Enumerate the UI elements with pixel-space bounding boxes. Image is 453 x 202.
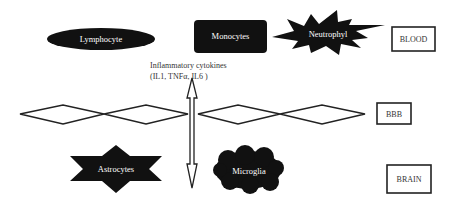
astrocytes-label: Astrocytes [98, 164, 134, 174]
diamond-2 [104, 105, 188, 124]
bbb-layer-box: BBB [377, 103, 411, 124]
neutrophyl-label: Neutrophyl [309, 29, 348, 39]
cytokines-line2: (IL1, TNFα, IL6 ) [150, 72, 208, 81]
brain-layer-box: BRAIN [387, 165, 431, 193]
diamond-3 [198, 105, 280, 124]
microglia-cell: Microglia [213, 145, 284, 194]
cloud-puff [241, 176, 259, 194]
double-arrow-icon [187, 78, 197, 188]
blood-label: BLOOD [400, 35, 428, 44]
lymphocyte-cell: Lymphocyte [47, 28, 155, 50]
neutrophyl-cell: Neutrophyl [272, 10, 385, 55]
brain-label: BRAIN [397, 175, 422, 184]
bbb-label: BBB [386, 110, 402, 119]
microglia-label: Microglia [232, 166, 266, 176]
monocytes-cell: Monocytes [194, 20, 267, 53]
cloud-puff [235, 145, 255, 165]
cytokines-annotation: Inflammatory cytokines (IL1, TNFα, IL6 ) [150, 61, 227, 81]
diamond-1 [20, 105, 104, 124]
astrocytes-cell: Astrocytes [70, 145, 162, 193]
arrow-shape [187, 78, 197, 188]
monocytes-label: Monocytes [212, 31, 250, 41]
blood-layer-box: BLOOD [392, 27, 435, 51]
lymphocyte-label: Lymphocyte [80, 34, 123, 44]
cloud-puff [213, 163, 227, 177]
diamond-4 [280, 105, 365, 124]
cytokines-line1: Inflammatory cytokines [150, 61, 227, 70]
neuroinflammation-diagram: Lymphocyte Monocytes Neutrophyl BLOOD In… [0, 0, 453, 202]
